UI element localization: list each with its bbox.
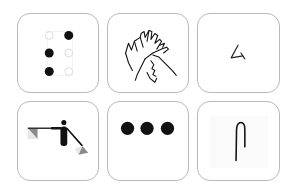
tile-semaphore[interactable]: Flag semaphore — [17, 101, 99, 181]
tile-sign-language[interactable]: Sign language — [107, 13, 189, 93]
symbol-grid: Braille Sign language — [17, 13, 280, 181]
three-dots-icon — [108, 102, 188, 180]
signing-hands-icon — [108, 14, 188, 92]
character-glyph-icon — [198, 14, 279, 92]
semaphore-flags-icon — [18, 102, 98, 180]
braille-cell-icon — [18, 14, 98, 92]
tile-morse[interactable]: Morse code — [107, 101, 189, 181]
tile-written-character[interactable]: Written character — [197, 13, 280, 93]
stroke-glyph-icon — [198, 102, 279, 180]
tile-braille[interactable]: Braille — [17, 13, 99, 93]
tile-handwritten-stroke[interactable]: Handwritten stroke — [197, 101, 280, 181]
